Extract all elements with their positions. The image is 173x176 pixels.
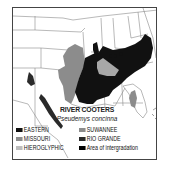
legend-item-eastern: EASTERN [16,126,49,133]
legend-item-hieroglyphic: HIEROGLYPHIC [16,144,64,151]
legend-label: SUWANNEE [87,126,118,133]
legend-item-intergradation: Area of intergradation [79,144,138,151]
legend-label: MISSOURI [24,135,50,142]
legend-item-suwannee: SUWANNEE [79,126,117,133]
bahamas [152,108,157,120]
map-title: RIVER COOTERS [40,105,134,114]
patch-va [133,46,139,50]
legend-label: Area of intergradation [87,144,138,151]
swatch-eastern [16,128,23,132]
legend-label: RIO GRANDE [87,135,121,142]
rio-grande-range-nm [27,72,35,86]
legend-item-missouri: MISSOURI [16,135,50,142]
swatch-missouri [16,137,23,141]
legend-label: EASTERN [24,126,49,133]
patch-ky [109,54,117,58]
swatch-suwannee [79,128,86,132]
map-subtitle: Pseudemys concinna [40,114,134,123]
legend-label: HIEROGLYPHIC [24,144,64,151]
legend-item-rio-grande: RIO GRANDE [79,135,121,142]
swatch-rio-grande [79,137,86,141]
swatch-hieroglyphic [16,146,23,150]
swatch-intergradation [79,146,86,150]
patch-ky2 [119,53,123,56]
